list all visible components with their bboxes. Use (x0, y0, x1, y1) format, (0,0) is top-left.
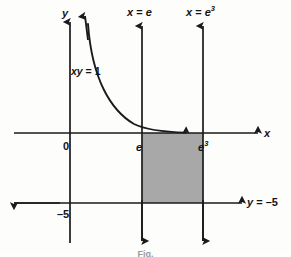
label-x-equals-e-value: e (146, 6, 152, 18)
x-tick-label-e: e (136, 142, 142, 153)
origin-label: 0 (63, 141, 69, 152)
label-x-equals-e: x = e (127, 7, 152, 18)
curve-label-equation: = 1 (83, 65, 101, 77)
y-axis-label: y (62, 8, 68, 19)
label-y-equals-minus5: y = –5 (247, 197, 278, 208)
label-x-equals-e-cubed-operator: = (192, 6, 205, 18)
x-tick-label-e-cubed: e3 (198, 142, 208, 153)
curve-label-variable: xy (71, 65, 83, 77)
x-tick-label-e-cubed-exponent: 3 (204, 139, 208, 148)
curve-label-xy-equals-1: xy = 1 (71, 66, 101, 77)
x-axis-label: x (264, 128, 270, 139)
figure-caption: Fig. (0, 249, 291, 257)
label-x-equals-e-cubed: x = e3 (186, 7, 215, 18)
curve-xy-equals-1 (88, 24, 186, 133)
label-x-equals-e-cubed-exponent: 3 (211, 4, 215, 13)
label-x-equals-e-operator: = (133, 6, 146, 18)
label-y-equals-minus5-operator: = –5 (253, 196, 278, 208)
y-tick-label-minus5: –5 (57, 209, 69, 220)
shaded-region (142, 133, 203, 203)
